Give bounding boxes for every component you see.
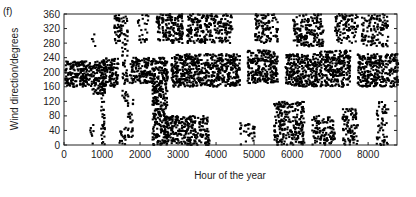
svg-text:40: 40 (49, 125, 61, 136)
svg-text:0: 0 (61, 149, 67, 160)
svg-text:1000: 1000 (91, 149, 114, 160)
scatter-plot: 04080120160200240280320360 0100020003000… (0, 0, 416, 197)
svg-text:3000: 3000 (167, 149, 190, 160)
svg-text:4000: 4000 (205, 149, 228, 160)
svg-text:120: 120 (43, 96, 60, 107)
svg-text:80: 80 (49, 110, 61, 121)
svg-text:5000: 5000 (243, 149, 266, 160)
svg-text:8000: 8000 (357, 149, 380, 160)
svg-text:7000: 7000 (319, 149, 342, 160)
svg-text:160: 160 (43, 81, 60, 92)
svg-text:240: 240 (43, 52, 60, 63)
svg-text:200: 200 (43, 67, 60, 78)
svg-text:320: 320 (43, 23, 60, 34)
data-points (64, 13, 399, 146)
svg-text:0: 0 (54, 140, 60, 151)
svg-text:360: 360 (43, 9, 60, 20)
svg-text:2000: 2000 (129, 149, 152, 160)
svg-text:6000: 6000 (281, 149, 304, 160)
svg-text:280: 280 (43, 38, 60, 49)
